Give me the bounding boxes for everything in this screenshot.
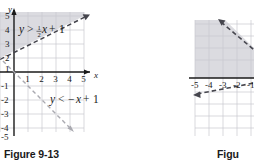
svg-text:1: 1	[59, 23, 65, 35]
figure-left-clip: 1 2 3 4 5 5 4 3 2 1 -1 -2	[0, 0, 127, 145]
svg-text:2: 2	[38, 31, 41, 38]
svg-text:y: y	[18, 23, 25, 36]
svg-text:+: +	[83, 93, 90, 105]
right-graph-svg: -5 -4 -3 -2 -1 5 4 3 2 -1 -2 -3	[187, 14, 254, 142]
left-xtick-4: 4	[67, 74, 72, 84]
figure-left: 1 2 3 4 5 5 4 3 2 1 -1 -2	[0, 0, 127, 167]
left-ytick-m5: -5	[1, 132, 9, 140]
left-ytick-4: 4	[5, 25, 10, 35]
svg-text:−: −	[68, 93, 75, 105]
right-xtick-m5: -5	[191, 80, 199, 90]
right-xtick-m2: -2	[233, 80, 241, 90]
left-ytick-m3: -3	[1, 109, 9, 119]
svg-text:+: +	[49, 23, 56, 35]
left-ytick-1: 1	[5, 64, 10, 74]
svg-text:y: y	[49, 93, 56, 106]
left-xtick-5: 5	[81, 74, 86, 84]
svg-text:1: 1	[38, 24, 41, 31]
svg-text:x: x	[41, 23, 48, 35]
figure-right-clip: -5 -4 -3 -2 -1 5 4 3 2 -1 -2 -3	[127, 0, 254, 145]
right-xtick-m1: -1	[247, 80, 254, 90]
left-ytick-m1: -1	[1, 81, 9, 91]
left-x-axis-label: x	[93, 70, 98, 80]
svg-text:<: <	[58, 93, 65, 105]
right-graph-plot: -5 -4 -3 -2 -1 5 4 3 2 -1 -2 -3	[187, 14, 254, 142]
left-xtick-3: 3	[53, 74, 58, 84]
figure-right-caption: Figu	[217, 148, 239, 160]
left-xtick-2: 2	[39, 74, 44, 84]
left-ytick-2: 2	[5, 53, 10, 63]
left-ytick-m2: -2	[1, 95, 9, 105]
figure-page: 1 2 3 4 5 5 4 3 2 1 -1 -2	[0, 0, 254, 167]
left-y-axis-arrow	[11, 8, 16, 15]
left-y-axis-label: y	[7, 4, 12, 14]
figure-right: -5 -4 -3 -2 -1 5 4 3 2 -1 -2 -3	[127, 0, 254, 167]
left-ytick-3: 3	[5, 39, 10, 49]
svg-text:x: x	[75, 93, 82, 105]
left-graph-svg: 1 2 3 4 5 5 4 3 2 1 -1 -2	[0, 4, 112, 140]
right-xtick-m3: -3	[219, 80, 227, 90]
figure-left-caption: Figure 9-13	[4, 148, 59, 160]
left-graph-plot: 1 2 3 4 5 5 4 3 2 1 -1 -2	[0, 4, 112, 140]
svg-text:1: 1	[93, 93, 99, 105]
right-xtick-m4: -4	[205, 80, 213, 90]
left-xtick-1: 1	[25, 74, 30, 84]
svg-text:>: >	[27, 23, 34, 35]
